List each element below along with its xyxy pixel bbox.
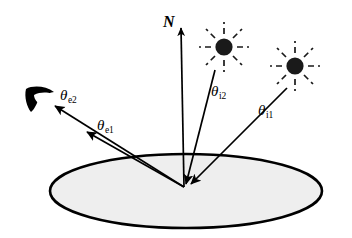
- eye-icon-observer: [25, 87, 54, 112]
- theta-subscript: e1: [105, 125, 114, 135]
- exitant-angle-1-label: θe1: [97, 118, 113, 133]
- sun-icon-light-source-2: [270, 41, 320, 91]
- exitant-angle-2-label: θe2: [60, 88, 76, 103]
- theta-subscript: i1: [266, 110, 273, 120]
- theta-symbol: θ: [97, 117, 104, 133]
- theta-subscript: i2: [219, 91, 226, 101]
- sun-icon-light-source-1: [199, 22, 249, 72]
- diagram-canvas: [0, 0, 352, 238]
- theta-subscript: e2: [68, 95, 77, 105]
- incident-angle-1-label: θi1: [258, 103, 273, 118]
- theta-symbol: θ: [211, 83, 218, 99]
- surface-normal-label: N: [163, 14, 175, 30]
- theta-symbol: θ: [258, 102, 265, 118]
- surface-patch-ellipse: [50, 154, 322, 228]
- theta-symbol: θ: [60, 87, 67, 103]
- incident-angle-2-label: θi2: [211, 84, 226, 99]
- brdf-geometry-figure: N θi2 θi1 θe2 θe1: [0, 0, 352, 238]
